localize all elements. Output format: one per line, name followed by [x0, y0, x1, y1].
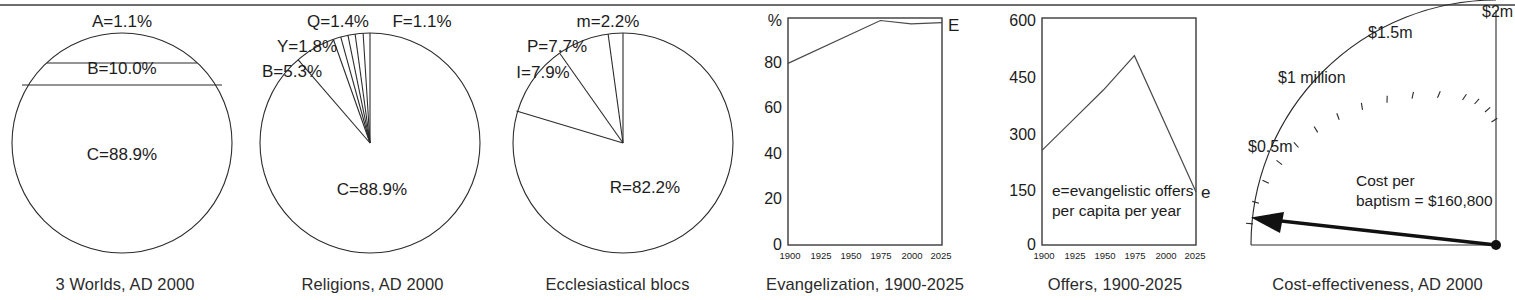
caption-cost-effectiveness: Cost-effectiveness, AD 2000 — [1240, 275, 1515, 294]
xtick-1925: 1925 — [1064, 250, 1085, 261]
ytick-20: 20 — [764, 190, 782, 207]
caption-ecclesiastical-blocs: Ecclesiastical blocs — [495, 275, 740, 294]
panel-religions: Q=1.4% F=1.1% Y=1.8% B=5.3% C=88.9% Reli… — [250, 0, 495, 300]
ytick-percent: % — [768, 12, 782, 29]
label-m: m=2.2% — [577, 12, 640, 31]
label-y: Y=1.8% — [277, 37, 337, 56]
xtick-1900: 1900 — [779, 250, 800, 261]
series-label-e: e — [1201, 183, 1210, 202]
series-label-E: E — [948, 16, 959, 35]
xtick-2025: 2025 — [1184, 250, 1205, 261]
ytick-600: 600 — [1009, 12, 1036, 29]
label-i: I=7.9% — [516, 63, 569, 82]
panel-ecclesiastical-blocs: m=2.2% P=7.7% I=7.9% R=82.2% Ecclesiasti… — [495, 0, 740, 300]
gauge-pivot-dot — [1491, 240, 1501, 250]
ytick-60: 60 — [764, 99, 782, 116]
label-f: F=1.1% — [392, 12, 451, 31]
panel-three-worlds: A=1.1% B=10.0% C=88.9% 3 Worlds, AD 2000 — [0, 0, 250, 300]
gauge-note-line1: Cost per — [1356, 172, 1415, 189]
label-c: C=88.9% — [87, 145, 157, 164]
label-b: B=5.3% — [262, 62, 322, 81]
label-c: C=88.9% — [337, 180, 407, 199]
religions-label-layer: Q=1.4% F=1.1% Y=1.8% B=5.3% C=88.9% — [250, 0, 495, 275]
xtick-1925: 1925 — [810, 250, 831, 261]
label-b: B=10.0% — [87, 59, 156, 78]
ytick-40: 40 — [764, 145, 782, 162]
gauge-label-one-million: $1 million — [1278, 69, 1346, 86]
label-a: A=1.1% — [92, 12, 152, 31]
xtick-2000: 2000 — [1155, 250, 1176, 261]
ecclesiastical-label-layer: m=2.2% P=7.7% I=7.9% R=82.2% — [495, 0, 740, 275]
caption-three-worlds: 3 Worlds, AD 2000 — [0, 275, 250, 294]
evangelization-series-line — [788, 21, 942, 64]
xtick-2000: 2000 — [901, 250, 922, 261]
caption-religions: Religions, AD 2000 — [250, 275, 495, 294]
xtick-1950: 1950 — [840, 250, 861, 261]
xtick-2025: 2025 — [930, 250, 951, 261]
ytick-300: 300 — [1009, 126, 1036, 143]
offers-series-line — [1042, 56, 1196, 192]
panel-evangelization: % 80 60 40 20 0 1900 1925 1950 1975 2000… — [740, 0, 990, 300]
panel-cost-effectiveness: $0.5m $1 million $1.5m $2m Cost per bapt… — [1240, 0, 1515, 300]
caption-offers: Offers, 1900-2025 — [990, 275, 1240, 294]
gauge-note-line2: baptism = $160,800 — [1356, 192, 1493, 209]
xtick-1900: 1900 — [1033, 250, 1054, 261]
gauge-label-half-million: $0.5m — [1248, 138, 1292, 155]
three-worlds-label-layer: A=1.1% B=10.0% C=88.9% — [0, 0, 250, 275]
ytick-150: 150 — [1009, 182, 1036, 199]
offers-note-line2: per capita per year — [1052, 202, 1181, 219]
xtick-1975: 1975 — [870, 250, 891, 261]
caption-evangelization: Evangelization, 1900-2025 — [740, 275, 990, 294]
xtick-1950: 1950 — [1094, 250, 1115, 261]
label-r: R=82.2% — [610, 178, 680, 197]
cost-effectiveness-gauge: $0.5m $1 million $1.5m $2m Cost per bapt… — [1240, 0, 1515, 275]
ytick-450: 450 — [1009, 69, 1036, 86]
panel-offers: 600 450 300 150 0 1900 1925 1950 1975 20… — [990, 0, 1240, 300]
label-p: P=7.7% — [527, 37, 587, 56]
gauge-label-two-million: $2m — [1482, 3, 1513, 20]
gauge-needle — [1264, 219, 1496, 245]
multi-panel-figure: A=1.1% B=10.0% C=88.9% 3 Worlds, AD 2000 — [0, 0, 1515, 300]
xtick-1975: 1975 — [1124, 250, 1145, 261]
gauge-needle-arrowhead — [1251, 212, 1284, 233]
ytick-80: 80 — [764, 54, 782, 71]
evangelization-line-chart: % 80 60 40 20 0 1900 1925 1950 1975 2000… — [740, 0, 990, 275]
offers-note-line1: e=evangelistic offers — [1052, 182, 1194, 199]
offers-line-chart: 600 450 300 150 0 1900 1925 1950 1975 20… — [990, 0, 1240, 275]
gauge-label-one-point-five-million: $1.5m — [1368, 24, 1412, 41]
label-q: Q=1.4% — [307, 12, 369, 31]
